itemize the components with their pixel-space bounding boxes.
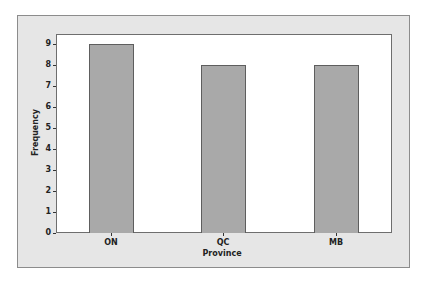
y-tick-label: 0	[37, 229, 51, 237]
y-tick-label: 7	[37, 82, 51, 90]
y-tick-mark	[53, 128, 56, 129]
y-tick-mark	[53, 86, 56, 87]
y-tick-mark	[53, 149, 56, 150]
x-tick-mark	[223, 233, 224, 236]
y-tick-mark	[53, 170, 56, 171]
y-axis-label: Frequency	[31, 93, 40, 173]
y-tick-mark	[53, 233, 56, 234]
bar-mb	[314, 65, 359, 233]
bar-qc	[201, 65, 246, 233]
x-tick-mark	[111, 233, 112, 236]
y-tick-mark	[53, 212, 56, 213]
y-tick-mark	[53, 65, 56, 66]
y-tick-label: 1	[37, 208, 51, 216]
x-tick-label: QC	[203, 238, 243, 247]
y-tick-label: 8	[37, 61, 51, 69]
y-tick-mark	[53, 107, 56, 108]
y-tick-mark	[53, 44, 56, 45]
x-tick-label: ON	[91, 238, 131, 247]
y-tick-label: 2	[37, 187, 51, 195]
x-axis-label: Province	[182, 249, 262, 258]
y-tick-mark	[53, 191, 56, 192]
x-tick-label: MB	[316, 238, 356, 247]
y-tick-label: 9	[37, 40, 51, 48]
bar-on	[89, 44, 134, 233]
x-tick-mark	[336, 233, 337, 236]
